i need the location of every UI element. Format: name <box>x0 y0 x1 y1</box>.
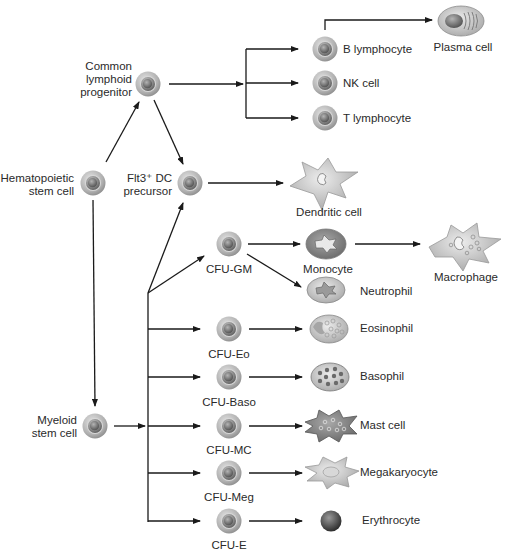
hsc-cell-icon <box>81 171 106 196</box>
flt3-label: Flt3⁺ DC precursor <box>110 172 172 198</box>
plasma-cell-icon <box>438 6 484 36</box>
myeloid-stem-cell-icon <box>83 414 108 439</box>
cfu-eo-cell-icon <box>217 317 242 342</box>
eosinophil-icon <box>310 315 348 343</box>
cfu-baso-cell-icon <box>217 365 242 390</box>
cfu-e-label: CFU-E <box>211 539 246 552</box>
dendritic-cell-icon <box>290 158 358 210</box>
erythrocyte-icon <box>321 511 342 532</box>
clp-cell-icon <box>136 72 161 97</box>
neutrophil-icon <box>307 277 345 303</box>
flt3-cell-icon <box>178 171 203 196</box>
t-lymphocyte-icon <box>313 106 338 131</box>
erythrocyte-label: Erythrocyte <box>362 514 420 527</box>
cfu-gm-cell-icon <box>217 232 242 257</box>
megakaryocyte-icon <box>305 457 359 489</box>
macrophage-icon <box>429 223 501 271</box>
dendritic-cell-label: Dendritic cell <box>296 206 362 219</box>
monocyte-icon <box>306 229 346 259</box>
clp-label: Common lymphoid progenitor <box>40 60 132 99</box>
cfu-meg-label: CFU-Meg <box>204 491 254 504</box>
clp-label-line1: Common <box>40 60 132 73</box>
mast-cell-icon <box>305 410 357 442</box>
cfu-baso-label: CFU-Baso <box>202 396 256 409</box>
cfu-mc-cell-icon <box>217 414 242 439</box>
cfu-eo-label: CFU-Eo <box>208 348 250 361</box>
hsc-label: Hematopoietic stem cell <box>0 172 74 198</box>
megakaryocyte-label: Megakaryocyte <box>360 466 438 479</box>
nk-cell-icon <box>313 71 338 96</box>
cfu-gm-label: CFU-GM <box>206 263 252 276</box>
basophil-icon <box>311 363 349 391</box>
plasma-cell-label: Plasma cell <box>434 41 493 54</box>
nk-cell-label: NK cell <box>343 77 379 90</box>
macrophage-label: Macrophage <box>434 271 498 284</box>
eosinophil-label: Eosinophil <box>360 322 413 335</box>
clp-label-line3: progenitor <box>40 86 132 99</box>
t-lymphocyte-label: T lymphocyte <box>343 112 411 125</box>
monocyte-label: Monocyte <box>303 263 353 276</box>
mast-cell-label: Mast cell <box>360 419 405 432</box>
myeloid-label-line1: Myeloid <box>0 414 77 427</box>
hematopoiesis-diagram: Common lymphoid progenitor Hematopoietic… <box>0 0 511 556</box>
clp-label-line2: lymphoid <box>40 73 132 86</box>
b-lymphocyte-icon <box>313 37 338 62</box>
flt3-label-line1: Flt3⁺ DC <box>110 172 172 185</box>
cfu-e-cell-icon <box>217 509 242 534</box>
myeloid-label: Myeloid stem cell <box>0 414 77 440</box>
myeloid-label-line2: stem cell <box>0 427 77 440</box>
neutrophil-label: Neutrophil <box>360 285 412 298</box>
basophil-label: Basophil <box>360 370 404 383</box>
hsc-label-line1: Hematopoietic <box>0 172 74 185</box>
b-lymphocyte-label: B lymphocyte <box>343 43 412 56</box>
hsc-label-line2: stem cell <box>0 185 74 198</box>
flt3-label-line2: precursor <box>110 185 172 198</box>
cfu-meg-cell-icon <box>217 461 242 486</box>
cfu-mc-label: CFU-MC <box>206 444 251 457</box>
